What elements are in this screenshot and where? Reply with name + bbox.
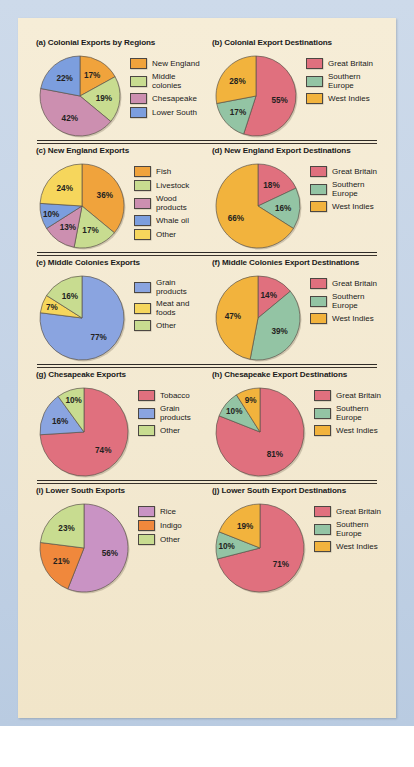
pie-value-label-h-1: 10% [226,407,243,416]
pie-chart-b: 55%17%28% [212,52,300,140]
pie-chart-i: 56%21%23% [36,500,132,596]
legend-swatch-icon [306,58,323,69]
legend-j: Great BritainSouthern EuropeWest Indies [314,506,381,555]
legend-label: West Indies [336,426,378,435]
legend-swatch-icon [138,534,155,545]
legend-item[interactable]: West Indies [306,93,373,104]
chart-body-i: 56%21%23%RiceIndigoOther [36,500,204,596]
legend-item[interactable]: Great Britain [314,506,381,517]
pie-wrap-g: 74%16%10% [36,384,132,480]
legend-e: Grain productsMeat and foodsOther [134,278,204,334]
legend-item[interactable]: Grain products [134,278,204,296]
legend-item[interactable]: Meat and foods [134,299,204,317]
legend-swatch-icon [130,107,147,118]
legend-item[interactable]: Indigo [138,520,182,531]
legend-item[interactable]: Southern Europe [314,404,381,422]
legend-item[interactable]: Lower South [130,107,204,118]
divider-rule-bottom [37,483,377,484]
figure-panel: (a) Colonial Exports by Regions17%19%42%… [18,18,396,718]
chart-body-c: 36%17%13%10%24%FishLivestockWood product… [36,160,204,252]
chart-title-g: (g) Chesapeake Exports [36,370,204,379]
legend-item[interactable]: Other [138,534,182,545]
legend-item[interactable]: Tobacco [138,390,204,401]
legend-item[interactable]: Other [134,320,204,331]
legend-label: Great Britain [332,167,377,176]
chart-body-e: 77%7%16%Grain productsMeat and foodsOthe… [36,272,204,364]
chart-title-c: (c) New England Exports [36,146,204,155]
legend-item[interactable]: Other [134,229,204,240]
legend-swatch-icon [134,282,151,293]
legend-swatch-icon [314,524,331,535]
chart-block-h: (h) Chesapeake Export Destinations81%10%… [204,370,396,480]
pie-chart-c: 36%17%13%10%24% [36,160,128,252]
pie-value-label-j-2: 19% [237,522,254,531]
chart-row-3: (g) Chesapeake Exports74%16%10%TobaccoGr… [18,370,396,480]
pie-value-label-a-1: 19% [96,94,113,103]
legend-item[interactable]: Livestock [134,180,204,191]
legend-item[interactable]: Great Britain [314,390,381,401]
legend-label: Great Britain [336,507,381,516]
legend-label: Southern Europe [328,72,360,90]
legend-item[interactable]: West Indies [310,313,377,324]
legend-item[interactable]: West Indies [314,425,381,436]
legend-item[interactable]: Chesapeake [130,93,204,104]
legend-swatch-icon [138,425,155,436]
divider-rule-bottom [37,255,377,256]
divider-rule-top [37,480,377,481]
pie-value-label-f-0: 14% [261,291,278,300]
chart-row-0: (a) Colonial Exports by Regions17%19%42%… [18,38,396,140]
legend-label: Other [156,230,176,239]
chart-title-b: (b) Colonial Export Destinations [212,38,396,47]
pie-chart-h: 81%10%9% [212,384,308,480]
legend-swatch-icon [310,184,327,195]
chart-row-4: (i) Lower South Exports56%21%23%RiceIndi… [18,486,396,596]
legend-label: Tobacco [160,391,190,400]
legend-item[interactable]: Southern Europe [314,520,381,538]
pie-value-label-d-2: 66% [228,214,245,223]
legend-item[interactable]: Whale oil [134,215,204,226]
legend-swatch-icon [314,506,331,517]
chart-title-e: (e) Middle Colonies Exports [36,258,204,267]
legend-b: Great BritainSouthern EuropeWest Indies [306,58,373,107]
legend-item[interactable]: Wood products [134,194,204,212]
legend-item[interactable]: Great Britain [310,166,377,177]
pie-value-label-i-1: 21% [53,557,70,566]
chart-rows: (a) Colonial Exports by Regions17%19%42%… [18,18,396,596]
legend-swatch-icon [134,215,151,226]
legend-item[interactable]: West Indies [310,201,377,212]
chart-body-b: 55%17%28%Great BritainSouthern EuropeWes… [212,52,396,140]
legend-item[interactable]: West Indies [314,541,381,552]
legend-item[interactable]: Middle colonies [130,72,204,90]
pie-value-label-c-1: 17% [82,226,99,235]
legend-swatch-icon [306,93,323,104]
legend-swatch-icon [310,313,327,324]
legend-item[interactable]: Southern Europe [310,180,377,198]
legend-a: New EnglandMiddle coloniesChesapeakeLowe… [130,58,204,121]
chart-body-f: 14%39%47%Great BritainSouthern EuropeWes… [212,272,396,364]
legend-item[interactable]: Great Britain [306,58,373,69]
legend-item[interactable]: Great Britain [310,278,377,289]
pie-value-label-b-0: 55% [272,96,289,105]
legend-swatch-icon [134,166,151,177]
legend-item[interactable]: Fish [134,166,204,177]
chart-title-j: (j) Lower South Export Destinations [212,486,396,495]
legend-item[interactable]: Southern Europe [306,72,373,90]
legend-label: Lower South [152,108,197,117]
legend-label: Southern Europe [336,404,368,422]
legend-item[interactable]: Other [138,425,204,436]
legend-item[interactable]: Grain products [138,404,204,422]
legend-label: Great Britain [328,59,373,68]
legend-item[interactable]: New England [130,58,204,69]
legend-c: FishLivestockWood productsWhale oilOther [134,166,204,243]
pie-value-label-e-2: 16% [62,292,79,301]
legend-label: Whale oil [156,216,189,225]
legend-swatch-icon [138,506,155,517]
legend-item[interactable]: Southern Europe [310,292,377,310]
legend-label: West Indies [332,314,374,323]
legend-item[interactable]: Rice [138,506,182,517]
legend-label: Chesapeake [152,94,197,103]
chart-title-i: (i) Lower South Exports [36,486,204,495]
pie-value-label-f-2: 47% [225,312,242,321]
chart-body-g: 74%16%10%TobaccoGrain productsOther [36,384,204,480]
legend-label: Southern Europe [332,292,364,310]
